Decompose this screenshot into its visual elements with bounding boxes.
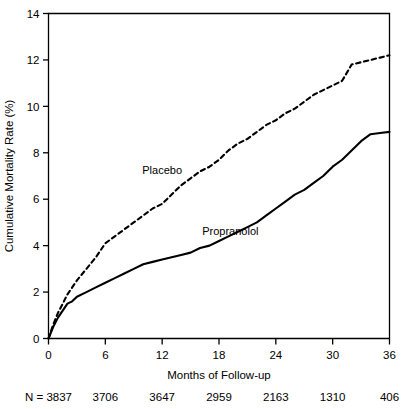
y-tick-label-10: 10 [27, 101, 40, 113]
y-tick-label-0: 0 [33, 333, 39, 345]
y-tick-label-14: 14 [27, 8, 40, 20]
series-line-placebo [49, 55, 390, 338]
risk-count-24: 2163 [263, 391, 289, 403]
x-tick-label-0: 0 [45, 349, 51, 361]
chart-figure: 02468101214061218243036Months of Follow-… [0, 0, 412, 409]
risk-count-12: 3647 [149, 391, 175, 403]
x-tick-label-12: 12 [156, 349, 169, 361]
x-axis-title: Months of Follow-up [167, 369, 271, 381]
risk-count-6: 3706 [93, 391, 119, 403]
x-tick-label-18: 18 [213, 349, 226, 361]
y-tick-label-4: 4 [33, 240, 40, 252]
series-label-placebo: Placebo [142, 164, 182, 176]
risk-count-30: 1310 [320, 391, 346, 403]
risk-count-36: 406 [380, 391, 399, 403]
y-axis-title: Cumulative Mortality Rate (%) [3, 99, 15, 252]
series-label-propranolol: Propranolol [202, 225, 258, 237]
y-tick-label-8: 8 [33, 147, 39, 159]
x-tick-label-36: 36 [383, 349, 396, 361]
y-tick-label-6: 6 [33, 193, 39, 205]
risk-count-0: N = 3837 [25, 391, 72, 403]
y-tick-label-12: 12 [27, 54, 40, 66]
y-tick-label-2: 2 [33, 286, 39, 298]
x-tick-label-24: 24 [269, 349, 282, 361]
plot-frame [49, 14, 390, 339]
mortality-chart: 02468101214061218243036Months of Follow-… [0, 0, 412, 409]
x-tick-label-30: 30 [326, 349, 339, 361]
x-tick-label-6: 6 [102, 349, 108, 361]
risk-count-18: 2959 [206, 391, 232, 403]
